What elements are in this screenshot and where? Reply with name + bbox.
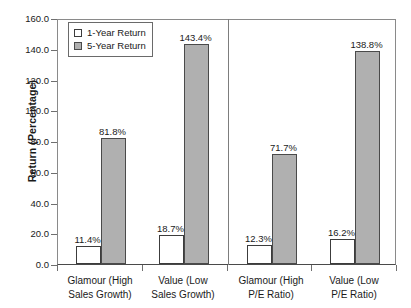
x-axis-label-line: Value (Low xyxy=(134,274,232,288)
bar-value-label: 143.4% xyxy=(166,32,226,43)
bar-value-label: 11.4% xyxy=(58,234,118,245)
legend-item-1-year-return: 1-Year Return xyxy=(74,26,146,39)
x-axis-label-line: Value (Low xyxy=(305,274,403,288)
x-axis-category-label: Value (LowP/E Ratio) xyxy=(305,274,403,301)
bar-chart-figure: Return (Percentage) 0.020.040.060.080.01… xyxy=(0,0,411,308)
bar xyxy=(272,154,297,264)
legend-item-5-year-return: 5-Year Return xyxy=(74,39,146,52)
bar-value-label: 81.8% xyxy=(83,126,143,137)
x-axis-tick xyxy=(227,265,228,271)
x-axis-tick xyxy=(57,265,58,271)
bar-value-label: 12.3% xyxy=(229,233,289,244)
x-axis-tick xyxy=(396,265,397,271)
bar xyxy=(330,239,355,264)
x-axis-label-line: P/E Ratio) xyxy=(305,288,403,302)
bar xyxy=(247,245,272,264)
x-axis-category-label: Value (LowSales Growth) xyxy=(134,274,232,301)
bar xyxy=(76,246,101,264)
legend-swatch-gray-icon xyxy=(74,42,82,50)
group-divider xyxy=(228,19,229,265)
bar-value-label: 16.2% xyxy=(312,227,372,238)
bar xyxy=(159,235,184,264)
x-axis-label-line: Sales Growth) xyxy=(134,288,232,302)
bar-value-label: 138.8% xyxy=(337,39,397,50)
bar-value-label: 71.7% xyxy=(254,142,314,153)
legend-label: 1-Year Return xyxy=(87,27,146,38)
chart-legend: 1-Year Return 5-Year Return xyxy=(68,22,153,57)
x-axis-tick xyxy=(142,265,143,271)
legend-swatch-white-icon xyxy=(74,29,82,37)
legend-label: 5-Year Return xyxy=(87,40,146,51)
bar-value-label: 18.7% xyxy=(141,223,201,234)
x-axis-tick xyxy=(311,265,312,271)
